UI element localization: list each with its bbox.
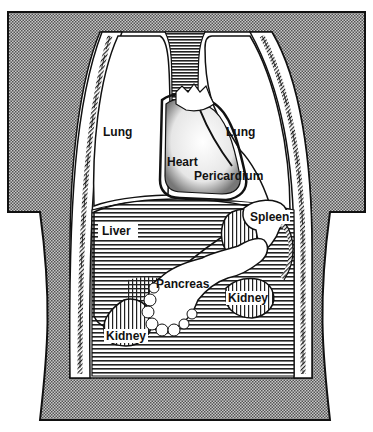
label-lung-left: Lung xyxy=(103,125,132,139)
label-kidney-right: Kidney xyxy=(228,291,268,305)
label-kidney-left: Kidney xyxy=(106,329,146,343)
label-liver: Liver xyxy=(102,224,131,238)
label-heart: Heart xyxy=(167,155,198,169)
label-lung-right: Lung xyxy=(226,125,255,139)
label-spleen: Spleen xyxy=(250,210,289,224)
label-pancreas: Pancreas xyxy=(156,277,210,291)
label-pericardium: Pericardium xyxy=(194,169,263,183)
anatomy-diagram: Lung Lung Heart Pericardium Liver Spleen… xyxy=(0,0,373,432)
